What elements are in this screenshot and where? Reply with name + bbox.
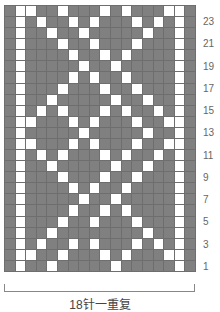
chart-cell	[100, 6, 110, 16]
chart-cell	[47, 217, 57, 227]
row-label: 23	[203, 16, 220, 27]
chart-cell	[154, 28, 164, 38]
chart-cell	[175, 228, 185, 238]
chart-cell	[100, 17, 110, 27]
chart-cell	[175, 183, 185, 193]
chart-cell	[58, 139, 68, 149]
chart-cell	[185, 50, 195, 60]
chart-cell	[69, 28, 79, 38]
chart-cell	[5, 17, 15, 27]
chart-cell	[37, 6, 47, 16]
chart-cell	[122, 6, 132, 16]
chart-cell	[26, 39, 36, 49]
chart-cell	[16, 250, 26, 260]
chart-cell	[47, 39, 57, 49]
chart-cell	[185, 6, 195, 16]
chart-cell	[90, 39, 100, 49]
chart-cell	[37, 205, 47, 215]
chart-cell	[164, 84, 174, 94]
chart-cell	[122, 28, 132, 38]
chart-cell	[16, 217, 26, 227]
chart-cell	[47, 139, 57, 149]
row-label: 21	[203, 38, 220, 49]
chart-cell	[58, 61, 68, 71]
chart-cell	[69, 183, 79, 193]
chart-cell	[16, 161, 26, 171]
chart-cell	[69, 172, 79, 182]
chart-cell	[69, 6, 79, 16]
chart-cell	[132, 61, 142, 71]
chart-cell	[185, 28, 195, 38]
chart-cell	[47, 28, 57, 38]
chart-cell	[164, 150, 174, 160]
chart-cell	[164, 228, 174, 238]
chart-cell	[185, 95, 195, 105]
chart-cell	[143, 239, 153, 249]
chart-cell	[26, 6, 36, 16]
chart-cell	[58, 150, 68, 160]
chart-cell	[26, 228, 36, 238]
chart-cell	[69, 239, 79, 249]
chart-cell	[79, 172, 89, 182]
chart-cell	[5, 239, 15, 249]
chart-cell	[143, 84, 153, 94]
chart-cell	[122, 150, 132, 160]
chart-cell	[16, 6, 26, 16]
row-label: 7	[203, 194, 220, 205]
chart-cell	[5, 6, 15, 16]
chart-cell	[69, 39, 79, 49]
chart-cell	[5, 183, 15, 193]
chart-cell	[143, 128, 153, 138]
chart-cell	[100, 172, 110, 182]
chart-cell	[164, 194, 174, 204]
chart-cell	[154, 239, 164, 249]
chart-cell	[175, 261, 185, 271]
chart-cell	[79, 250, 89, 260]
chart-cell	[175, 50, 185, 60]
chart-cell	[122, 84, 132, 94]
chart-cell	[79, 261, 89, 271]
chart-cell	[5, 228, 15, 238]
chart-cell	[175, 139, 185, 149]
chart-cell	[185, 228, 195, 238]
chart-cell	[37, 106, 47, 116]
chart-cell	[100, 205, 110, 215]
chart-cell	[69, 128, 79, 138]
chart-cell	[100, 161, 110, 171]
chart-cell	[175, 61, 185, 71]
chart-cell	[5, 128, 15, 138]
chart-cell	[111, 84, 121, 94]
chart-cell	[58, 95, 68, 105]
chart-cell	[16, 117, 26, 127]
chart-cell	[143, 6, 153, 16]
chart-cell	[154, 205, 164, 215]
chart-cell	[69, 61, 79, 71]
chart-cell	[175, 17, 185, 27]
row-label: 17	[203, 83, 220, 94]
chart-cell	[5, 95, 15, 105]
chart-cell	[37, 50, 47, 60]
chart-cell	[154, 161, 164, 171]
chart-cell	[47, 150, 57, 160]
chart-cell	[26, 28, 36, 38]
chart-cell	[111, 150, 121, 160]
chart-cell	[37, 95, 47, 105]
chart-cell	[37, 239, 47, 249]
chart-cell	[175, 117, 185, 127]
chart-cell	[154, 106, 164, 116]
chart-cell	[16, 106, 26, 116]
chart-cell	[132, 217, 142, 227]
chart-cell	[90, 205, 100, 215]
chart-cell	[132, 261, 142, 271]
chart-cell	[164, 128, 174, 138]
chart-cell	[69, 261, 79, 271]
chart-cell	[26, 161, 36, 171]
row-label: 11	[203, 150, 220, 161]
chart-cell	[69, 217, 79, 227]
chart-cell	[26, 117, 36, 127]
chart-cell	[111, 117, 121, 127]
chart-cell	[100, 261, 110, 271]
chart-cell	[16, 150, 26, 160]
chart-cell	[111, 205, 121, 215]
chart-cell	[185, 106, 195, 116]
